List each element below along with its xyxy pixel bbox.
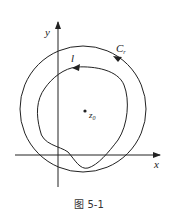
point-label: z0 <box>88 110 96 121</box>
x-axis-label: x <box>153 158 159 170</box>
circle-label: Cr <box>116 42 126 55</box>
figure-caption: 图 5-1 <box>74 199 104 210</box>
curve-l <box>37 67 127 168</box>
point-z0 <box>83 109 86 112</box>
figure-diagram: y x Cr l z0 图 5-1 <box>0 0 178 223</box>
y-axis-label: y <box>44 26 50 38</box>
curve-arrow-icon <box>72 64 80 71</box>
curve-label: l <box>71 52 74 64</box>
